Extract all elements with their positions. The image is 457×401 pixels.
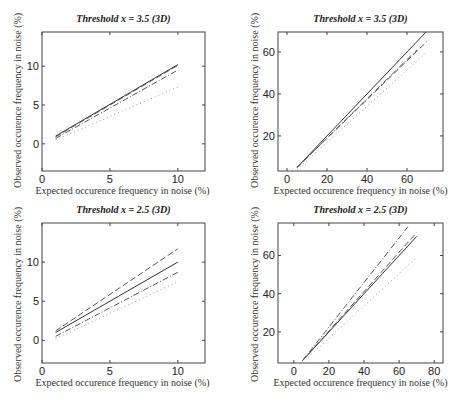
series-dashed	[56, 65, 178, 136]
y-tick-label: 0	[33, 334, 39, 346]
series-dotted	[56, 87, 178, 140]
x-tick-label: 5	[107, 365, 113, 377]
x-tick-label: 20	[323, 365, 335, 377]
chart-canvas: 0510051002040602040600510051002040608020…	[0, 0, 457, 401]
series-dash-dot	[56, 272, 178, 336]
x-tick-label: 0	[291, 365, 297, 377]
x-tick-label: 40	[361, 173, 373, 185]
series-dotted	[297, 52, 427, 170]
y-tick-label: 40	[263, 88, 275, 100]
series-solid	[56, 65, 178, 137]
x-tick-label: 0	[39, 173, 45, 185]
series-dash-dot	[56, 70, 178, 138]
series-dashed	[56, 249, 178, 331]
x-tick-label: 10	[172, 365, 184, 377]
plot-2: 05100510	[27, 223, 205, 377]
x-tick-label: 60	[393, 365, 405, 377]
y-tick-label: 20	[263, 130, 275, 142]
x-tick-label: 60	[401, 173, 413, 185]
x-tick-label: 5	[107, 173, 113, 185]
axes-frame	[278, 32, 443, 171]
x-tick-label: 0	[284, 173, 290, 185]
plot-3: 020406080204060	[263, 223, 443, 377]
x-tick-label: 40	[358, 365, 370, 377]
x-tick-label: 20	[321, 173, 333, 185]
axes-frame	[278, 223, 443, 363]
x-tick-label: 10	[172, 173, 184, 185]
y-tick-label: 60	[263, 249, 275, 261]
plot-1: 0204060204060	[263, 31, 443, 185]
y-tick-label: 20	[263, 326, 275, 338]
axes-frame	[42, 32, 205, 171]
series-solid	[303, 236, 417, 360]
series-dotted	[303, 257, 417, 362]
x-tick-label: 80	[428, 365, 440, 377]
y-tick-label: 10	[27, 60, 39, 72]
series-solid	[56, 262, 178, 332]
y-tick-label: 10	[27, 256, 39, 268]
y-tick-label: 40	[263, 288, 275, 300]
y-tick-label: 5	[33, 295, 39, 307]
plot-0: 05100510	[27, 32, 205, 185]
y-tick-label: 0	[33, 138, 39, 150]
y-tick-label: 5	[33, 99, 39, 111]
x-tick-label: 0	[39, 365, 45, 377]
y-tick-label: 60	[263, 46, 275, 58]
series-solid	[297, 31, 427, 167]
series-dash-dot	[303, 227, 408, 361]
